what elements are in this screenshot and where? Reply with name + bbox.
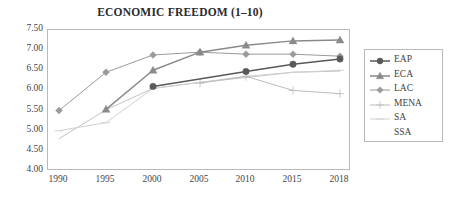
x-tick-label: 2005 bbox=[177, 174, 221, 184]
legend-item-eap[interactable]: EAP bbox=[365, 52, 442, 67]
chart-figure: ECONOMIC FREEDOM (1–10) 4.004.505.005.50… bbox=[0, 0, 457, 200]
x-tick-label: 2000 bbox=[130, 174, 174, 184]
legend-label: LAC bbox=[391, 83, 413, 93]
x-tick-label: 2018 bbox=[317, 174, 361, 184]
x-tick-label: 2010 bbox=[223, 174, 267, 184]
legend-label: ECA bbox=[391, 69, 413, 79]
legend-item-sa[interactable]: SA bbox=[365, 110, 442, 125]
legend-label: EAP bbox=[391, 54, 412, 64]
diamond-marker-icon bbox=[369, 82, 391, 94]
x-tick-label: 1995 bbox=[83, 174, 127, 184]
cross-marker-icon bbox=[369, 97, 391, 109]
legend-item-mena[interactable]: MENA bbox=[365, 96, 442, 111]
legend-item-lac[interactable]: LAC bbox=[365, 81, 442, 96]
chart-legend: EAPECALACMENASASSA bbox=[364, 49, 443, 142]
line-marker-icon bbox=[369, 111, 391, 123]
data-point-marker bbox=[377, 87, 384, 94]
x-tick-label: 2015 bbox=[270, 174, 314, 184]
legend-label: MENA bbox=[391, 98, 422, 108]
data-point-marker bbox=[376, 101, 384, 109]
legend-label: SA bbox=[391, 112, 406, 122]
legend-item-ssa[interactable]: SSA bbox=[365, 125, 442, 140]
legend-item-eca[interactable]: ECA bbox=[365, 67, 442, 82]
x-tick-label: 1990 bbox=[36, 174, 80, 184]
none-marker-icon bbox=[369, 126, 391, 138]
data-point-marker bbox=[377, 58, 383, 64]
legend-label: SSA bbox=[391, 127, 411, 137]
circle-marker-icon bbox=[369, 53, 391, 65]
triangle-marker-icon bbox=[369, 68, 391, 80]
